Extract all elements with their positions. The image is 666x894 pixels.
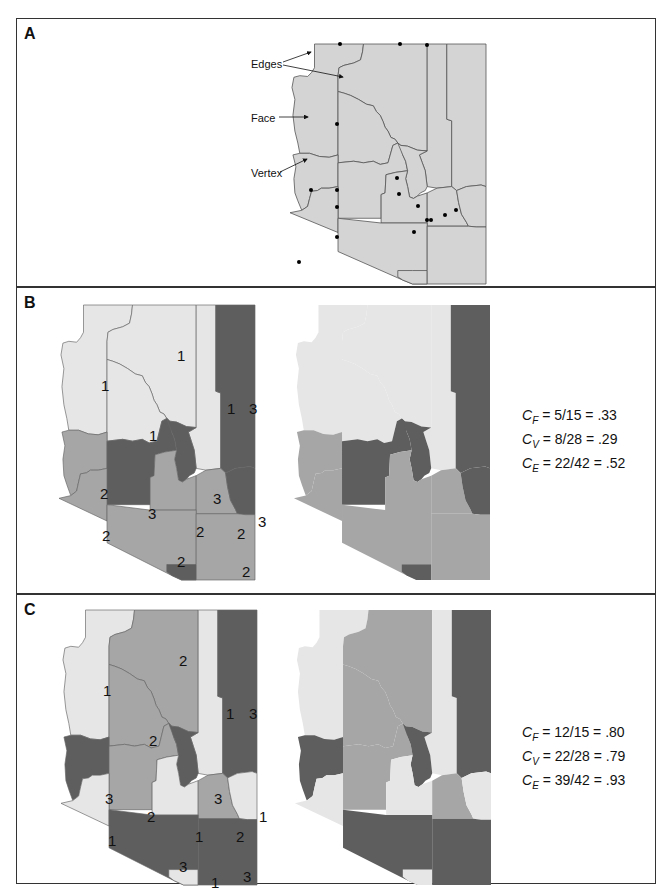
region-label: 2	[236, 828, 244, 845]
stat-vertices: CV = 22/28 = .79	[522, 747, 625, 771]
region-label: 3	[249, 400, 257, 417]
map-merged	[295, 610, 491, 885]
panel-label: B	[24, 294, 36, 312]
region-labels: 1 1 1 1 2 3 3 3 3 2 2 2 2 2	[59, 305, 255, 580]
panel-b: B 1 1 1 1 2 3 3 3 3 2 2 2 2 2	[16, 287, 656, 594]
panel-c: C 1 2 2 1 3 3 2 3 1 1 2 1 3 3 1	[16, 594, 656, 884]
region-label: 2	[102, 527, 110, 544]
region-label: 2	[147, 808, 155, 825]
region-label: 2	[242, 563, 250, 580]
region-label: 3	[105, 790, 113, 807]
region-labels: 1 2 2 1 3 3 2 3 1 1 2 1 3 3 1	[61, 610, 257, 885]
region-label: 3	[243, 868, 251, 885]
stat-faces: CF = 5/15 = .33	[522, 406, 625, 430]
region-label: 3	[179, 858, 187, 875]
region-label: 2	[149, 732, 157, 749]
panel-a: A Edges Face Vertex	[16, 18, 656, 287]
region-label: 1	[226, 705, 234, 722]
region-label: 2	[237, 525, 245, 542]
region-label: 2	[100, 485, 108, 502]
region-label: 3	[214, 790, 222, 807]
stat-faces: CF = 12/15 = .80	[522, 723, 625, 747]
region-label: 3	[213, 490, 221, 507]
region-label: 1	[108, 832, 116, 849]
contiguity-stats: CF = 5/15 = .33 CV = 8/28 = .29 CE = 22/…	[522, 406, 625, 477]
region-label: 2	[179, 652, 187, 669]
region-label: 1	[177, 347, 185, 364]
contiguity-stats: CF = 12/15 = .80 CV = 22/28 = .79 CE = 3…	[522, 723, 625, 794]
region-label: 3	[258, 513, 266, 530]
region-label: 2	[196, 523, 204, 540]
region-label: 3	[148, 505, 156, 522]
region-label: 1	[195, 828, 203, 845]
stat-vertices: CV = 8/28 = .29	[522, 430, 625, 454]
annotation-arrows	[17, 19, 657, 288]
region-label: 1	[149, 427, 157, 444]
region-label: 1	[259, 808, 267, 825]
map-merged	[294, 305, 490, 580]
panel-label: C	[24, 601, 36, 619]
region-label: 1	[211, 874, 219, 891]
region-label: 3	[249, 705, 257, 722]
region-label: 1	[101, 377, 109, 394]
stat-edges: CE = 22/42 = .52	[522, 454, 625, 478]
region-label: 1	[227, 400, 235, 417]
region-label: 2	[177, 553, 185, 570]
stat-edges: CE = 39/42 = .93	[522, 771, 625, 795]
region-label: 1	[103, 682, 111, 699]
